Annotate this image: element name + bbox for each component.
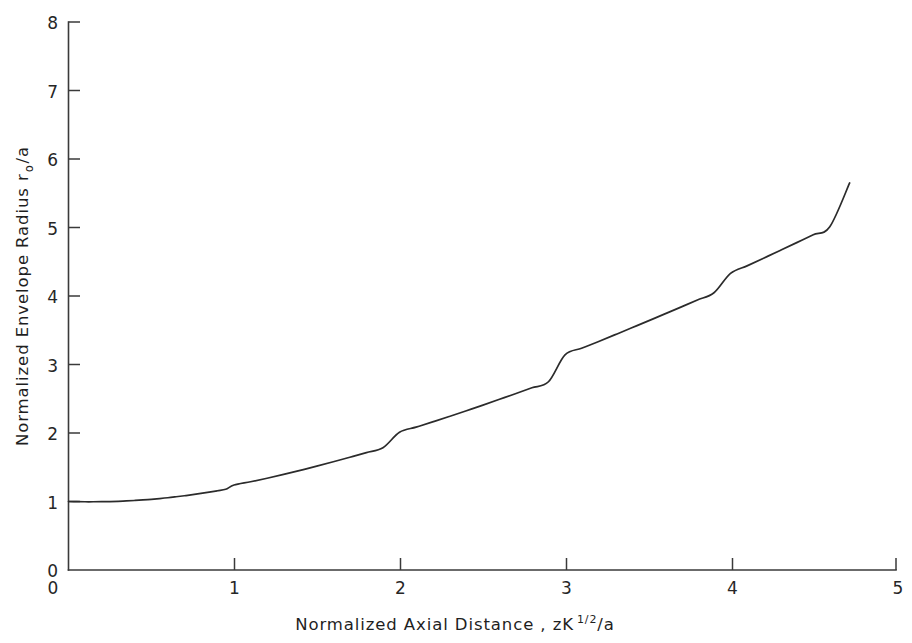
x-axis-title-tail: /a bbox=[597, 615, 614, 634]
x-tick-label-4: 4 bbox=[727, 578, 738, 598]
y-tick-label-3: 3 bbox=[47, 356, 58, 376]
svg-text:Normalized Envelope Radius: Normalized Envelope Radius ro/a bbox=[13, 146, 36, 446]
x-axis-title: Normalized Axial Distance , zK1/2/a bbox=[295, 613, 615, 634]
y-axis-title-main: Normalized Envelope Radius r bbox=[13, 173, 32, 446]
y-axis-ticks bbox=[69, 22, 81, 502]
y-axis-tick-labels: 8 7 6 5 4 3 2 1 0 bbox=[47, 13, 58, 581]
y-tick-label-6: 6 bbox=[47, 150, 58, 170]
y-axis-title: Normalized Envelope Radius ro/a bbox=[13, 146, 36, 446]
x-tick-label-1: 1 bbox=[229, 578, 240, 598]
x-axis-title-main: Normalized Axial Distance , zK bbox=[295, 615, 574, 634]
chart-figure: 8 7 6 5 4 3 2 1 0 0 1 2 3 4 5 bbox=[0, 0, 912, 643]
y-tick-label-2: 2 bbox=[47, 424, 58, 444]
line-chart: 8 7 6 5 4 3 2 1 0 0 1 2 3 4 5 bbox=[0, 0, 912, 643]
x-tick-label-3: 3 bbox=[561, 578, 572, 598]
x-tick-label-2: 2 bbox=[395, 578, 406, 598]
y-axis-title-subscript: o bbox=[22, 164, 36, 172]
x-axis-tick-labels: 0 1 2 3 4 5 bbox=[48, 578, 904, 598]
data-series-envelope-radius bbox=[69, 183, 850, 502]
y-tick-label-7: 7 bbox=[47, 82, 58, 102]
x-axis-ticks bbox=[235, 558, 897, 570]
y-tick-label-8: 8 bbox=[47, 13, 58, 33]
y-tick-label-4: 4 bbox=[47, 287, 58, 307]
y-tick-label-5: 5 bbox=[47, 219, 58, 239]
x-tick-label-5: 5 bbox=[893, 578, 904, 598]
x-tick-label-0: 0 bbox=[48, 578, 59, 598]
x-axis-title-sup-denominator: 2 bbox=[589, 613, 597, 626]
svg-text:Normalized Axial Distance ,: Normalized Axial Distance , zK1/2/a bbox=[295, 613, 615, 634]
y-tick-label-1: 1 bbox=[47, 493, 58, 513]
y-axis-title-tail: /a bbox=[13, 146, 32, 163]
x-axis-title-sup-numerator: 1 bbox=[577, 613, 585, 626]
